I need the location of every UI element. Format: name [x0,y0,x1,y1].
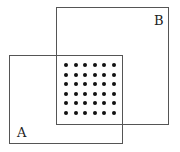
intersection-dot [112,92,116,96]
intersection-dot [83,92,87,96]
intersection-dot [74,92,78,96]
intersection-dot [102,82,106,86]
intersection-dot [64,111,68,115]
intersection-dot [102,101,106,105]
intersection-dot [83,73,87,77]
intersection-dot [83,101,87,105]
intersection-dot [102,111,106,115]
intersection-dot [64,73,68,77]
intersection-dot [112,73,116,77]
intersection-dot [112,111,116,115]
intersection-dot [93,111,97,115]
intersection-dot [93,92,97,96]
intersection-dot [74,73,78,77]
intersection-dot [64,101,68,105]
intersection-dot [74,63,78,67]
intersection-dot [112,82,116,86]
intersection-dot [93,101,97,105]
intersection-dot [83,63,87,67]
intersection-dot [64,92,68,96]
intersection-dot [112,63,116,67]
intersection-dot [102,73,106,77]
intersection-dot [93,63,97,67]
intersection-dot [102,92,106,96]
diagram-canvas: A B [0,0,180,152]
intersection-dot [112,101,116,105]
intersection-dot [74,101,78,105]
intersection-dot [74,111,78,115]
intersection-dot [83,82,87,86]
intersection-dot [64,82,68,86]
intersection-dot [93,73,97,77]
intersection-dot [83,111,87,115]
set-b-label: B [154,14,164,27]
intersection-dot [74,82,78,86]
intersection-dot [93,82,97,86]
intersection-dot [102,63,106,67]
set-a-label: A [17,126,26,139]
intersection-dot [64,63,68,67]
